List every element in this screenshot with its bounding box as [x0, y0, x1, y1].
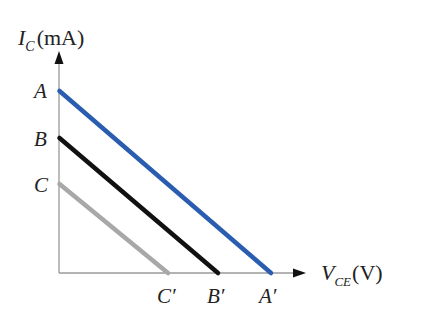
x-axis-title: VCE(V): [321, 260, 383, 289]
line-a: [60, 91, 272, 273]
label-c: C: [34, 173, 49, 197]
x-axis-subscript: CE: [334, 274, 351, 289]
y-axis-arrow-icon: [55, 51, 64, 64]
x-axis-unit: (V): [352, 260, 383, 285]
y-axis-title: IC(mA): [17, 25, 84, 54]
label-b-prime: B′: [207, 284, 225, 308]
line-c: [60, 184, 169, 273]
y-axis-unit: (mA): [37, 25, 85, 50]
load-line-diagram: IC(mA) A B C C′ B′ A′ VCE(V): [0, 0, 424, 323]
label-a-prime: A′: [257, 284, 277, 308]
label-b: B: [34, 127, 47, 151]
label-a: A: [32, 79, 47, 103]
x-axis-arrow-icon: [293, 269, 306, 278]
y-axis-subscript: C: [25, 39, 35, 54]
label-c-prime: C′: [157, 284, 176, 308]
